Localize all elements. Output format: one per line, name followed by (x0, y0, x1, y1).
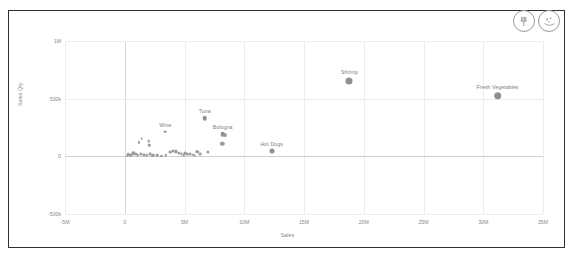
x-tick-label: 15M (284, 219, 324, 225)
y-tick-label: 1M (29, 38, 61, 44)
x-tick-label: -5M (45, 219, 85, 225)
y-axis-title: Sales Qty (17, 83, 23, 106)
viz-toolbar (513, 10, 560, 32)
x-gridline (304, 41, 305, 214)
data-point-label: Fresh Vegetables (477, 84, 519, 90)
data-point[interactable] (138, 141, 140, 143)
x-gridline (483, 41, 484, 214)
data-point[interactable] (199, 153, 202, 156)
data-point[interactable] (141, 138, 143, 140)
x-gridline (125, 41, 126, 214)
viz-card: Sales Qty Sales 1M500k0-500k -5M05M10M15… (8, 10, 565, 248)
x-gridline (424, 41, 425, 214)
x-axis-title: Sales (9, 232, 566, 238)
y-gridline (65, 214, 543, 215)
x-gridline (364, 41, 365, 214)
x-tick-label: 10M (224, 219, 264, 225)
data-point[interactable] (346, 77, 353, 84)
y-gridline (65, 99, 543, 100)
data-point[interactable] (220, 132, 225, 137)
data-point[interactable] (206, 151, 209, 154)
x-tick-label: 25M (404, 219, 444, 225)
data-point-label: Hot Dogs (261, 141, 283, 147)
scatter-dots-icon-button[interactable] (538, 10, 560, 32)
y-gridline (65, 41, 543, 42)
x-tick-label: 20M (344, 219, 384, 225)
data-point[interactable] (151, 155, 153, 157)
data-point[interactable] (126, 155, 128, 157)
data-point-label: Bologna (213, 124, 233, 130)
x-tick-label: 35M (523, 219, 563, 225)
plot-area[interactable]: ShrimpFresh VegetablesTunaBolognaHot Dog… (65, 41, 543, 214)
data-point-label: Shrimp (341, 69, 358, 75)
data-point-label: Tuna (199, 108, 211, 114)
data-point[interactable] (164, 130, 167, 133)
scatter-dots-icon (543, 15, 556, 28)
data-point-label: Wine (159, 122, 171, 128)
x-tick-label: 5M (165, 219, 205, 225)
data-point[interactable] (148, 144, 150, 146)
x-tick-label: 30M (463, 219, 503, 225)
data-point[interactable] (147, 140, 150, 143)
scatter-plot-viz: Sales Qty Sales 1M500k0-500k -5M05M10M15… (0, 0, 575, 260)
data-point[interactable] (269, 149, 274, 154)
x-gridline (543, 41, 544, 214)
y-tick-label: 500k (29, 96, 61, 102)
utensils-icon (518, 15, 531, 28)
y-tick-label: -500k (29, 211, 61, 217)
y-tick-label: 0 (29, 153, 61, 159)
data-point[interactable] (494, 92, 502, 100)
x-gridline (65, 41, 66, 214)
x-gridline (244, 41, 245, 214)
data-point[interactable] (156, 154, 159, 157)
y-gridline (65, 156, 543, 157)
data-point[interactable] (220, 141, 224, 145)
utensils-icon-button[interactable] (513, 10, 535, 32)
x-tick-label: 0 (105, 219, 145, 225)
data-point[interactable] (203, 116, 208, 121)
x-gridline (185, 41, 186, 214)
data-point[interactable] (161, 155, 163, 157)
